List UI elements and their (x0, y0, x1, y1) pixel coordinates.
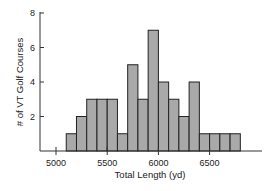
histogram-bar (138, 99, 148, 151)
histogram-bar (169, 99, 179, 151)
histogram-bar (117, 134, 127, 151)
histogram-bar (220, 134, 230, 151)
histogram-bar (107, 99, 117, 151)
histogram-bar (87, 99, 97, 151)
histogram-bar (66, 134, 76, 151)
histogram-bar (210, 134, 220, 151)
x-tick-label: 6000 (148, 158, 168, 168)
histogram-bar (230, 134, 240, 151)
histogram-chart: 2468 5000550060006500 Total Length (yd) … (0, 0, 274, 191)
y-tick-label: 6 (30, 43, 35, 53)
histogram-bar (179, 117, 189, 152)
x-tick-label: 5500 (97, 158, 117, 168)
histogram-bars (66, 30, 240, 151)
histogram-bar (199, 134, 209, 151)
x-tick-label: 5000 (46, 158, 66, 168)
histogram-bar (128, 65, 138, 151)
x-tick-label: 6500 (200, 158, 220, 168)
histogram-bar (97, 99, 107, 151)
y-tick-label: 4 (30, 77, 35, 87)
histogram-bar (76, 117, 86, 152)
x-axis-title: Total Length (yd) (115, 169, 186, 180)
y-tick-label: 8 (30, 8, 35, 18)
y-axis-ticks: 2468 (30, 8, 44, 122)
histogram-bar (148, 30, 158, 151)
y-tick-label: 2 (30, 112, 35, 122)
histogram-bar (158, 82, 168, 151)
histogram-bar (189, 82, 199, 151)
y-axis-title: # of VT Golf Courses (14, 37, 25, 126)
